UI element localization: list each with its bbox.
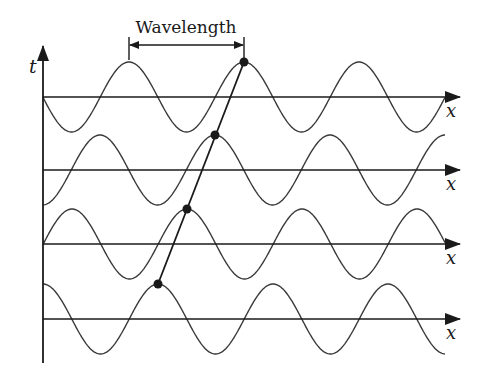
- x-axis-label-1: x: [446, 100, 456, 121]
- waves-group: [43, 62, 445, 354]
- x-axis-label-2: x: [446, 173, 456, 194]
- wave-propagation-diagram: xxxx Wavelength t: [0, 0, 485, 378]
- t-axis-label: t: [29, 55, 37, 77]
- diagram-canvas: xxxx Wavelength t: [0, 0, 485, 378]
- crest-point-4: [154, 280, 163, 289]
- phase-tracking-line: [158, 62, 244, 284]
- crest-point-2: [211, 131, 220, 140]
- x-axis-label-4: x: [446, 322, 456, 343]
- crest-point-3: [183, 205, 192, 214]
- wavelength-bracket: Wavelength: [129, 17, 244, 60]
- wavelength-label: Wavelength: [136, 17, 237, 37]
- x-axis-label-3: x: [446, 247, 456, 268]
- crest-point-1: [240, 58, 249, 67]
